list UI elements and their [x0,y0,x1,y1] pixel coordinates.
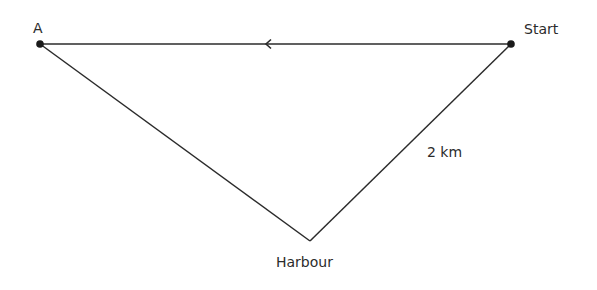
point-start-marker [507,40,515,48]
label-harbour: Harbour [276,255,333,269]
label-start: Start [524,22,558,36]
edge-harbour-to-start [310,44,511,241]
edge-a-to-harbour [40,44,310,241]
label-distance: 2 km [427,145,462,159]
label-point-a: A [33,21,43,35]
point-a-marker [36,40,44,48]
route-diagram [0,0,597,290]
